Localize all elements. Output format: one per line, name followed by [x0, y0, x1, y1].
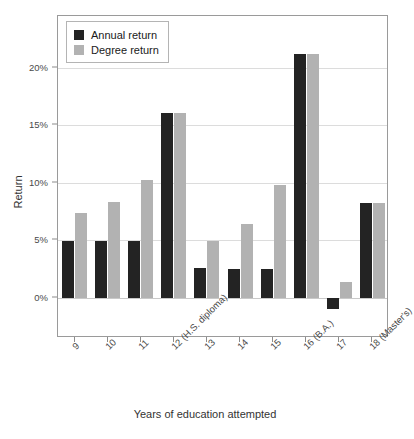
- legend-swatch-icon: [74, 45, 84, 55]
- y-tick-label: 0%: [34, 291, 48, 302]
- y-axis: 0%5%10%15%20%: [0, 0, 57, 439]
- bar-annual: [360, 203, 372, 297]
- bar-degree: [241, 224, 253, 298]
- bar-degree: [174, 113, 186, 298]
- bar-degree: [340, 282, 352, 298]
- chart-legend: Annual returnDegree return: [66, 21, 169, 63]
- legend-swatch-icon: [74, 30, 84, 40]
- y-tick-label: 10%: [29, 176, 48, 187]
- bar-annual: [327, 298, 339, 310]
- bar-annual: [294, 54, 306, 298]
- bar-degree: [108, 202, 120, 297]
- bar-degree: [207, 241, 219, 297]
- bar-degree: [274, 185, 286, 298]
- bar-annual: [261, 269, 273, 298]
- x-axis-title: Years of education attempted: [0, 408, 410, 420]
- bar-degree: [141, 180, 153, 297]
- plot-area: [57, 15, 388, 337]
- x-axis: 9101112 (H.S. diploma)13141516 (B.A.)171…: [57, 344, 388, 404]
- bar-annual: [161, 113, 173, 298]
- legend-item: Annual return: [74, 27, 159, 42]
- legend-label: Degree return: [91, 44, 159, 56]
- gridline: [58, 68, 387, 69]
- legend-item: Degree return: [74, 42, 159, 57]
- y-tick-label: 15%: [29, 119, 48, 130]
- bar-degree: [307, 54, 319, 298]
- legend-label: Annual return: [91, 29, 157, 41]
- bar-degree: [373, 203, 385, 297]
- bar-annual: [95, 241, 107, 297]
- bar-annual: [194, 268, 206, 298]
- bar-degree: [75, 213, 87, 298]
- gridline: [58, 183, 387, 184]
- gridline: [58, 125, 387, 126]
- bar-annual: [228, 269, 240, 298]
- y-tick-label: 20%: [29, 61, 48, 72]
- y-tick-label: 5%: [34, 234, 48, 245]
- bar-annual: [62, 241, 74, 297]
- bar-annual: [128, 241, 140, 297]
